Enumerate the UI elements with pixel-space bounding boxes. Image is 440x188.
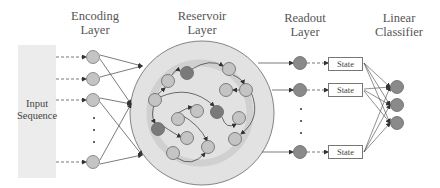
header-reservoir-line2: Layer bbox=[172, 23, 232, 37]
state-box-2: State bbox=[328, 83, 363, 97]
header-reservoir-line1: Reservoir bbox=[172, 9, 232, 23]
reservoir-node bbox=[233, 112, 246, 125]
reservoir-node bbox=[181, 132, 194, 145]
header-encoding-layer: Encoding Layer bbox=[65, 9, 125, 37]
header-readout-line2: Layer bbox=[275, 25, 335, 39]
header-readout-line1: Readout bbox=[275, 11, 335, 25]
header-reservoir-layer: Reservoir Layer bbox=[172, 9, 232, 37]
header-readout-layer: Readout Layer bbox=[275, 11, 335, 39]
readout-to-state-arrows bbox=[307, 63, 328, 152]
reservoir-node bbox=[229, 133, 242, 146]
reservoir-node bbox=[202, 141, 215, 154]
reservoir-node bbox=[223, 63, 236, 76]
state-to-classifier-connections bbox=[364, 63, 390, 152]
reservoir-node bbox=[191, 105, 204, 118]
state-box-1: State bbox=[328, 57, 363, 71]
header-encoding-line2: Layer bbox=[65, 23, 125, 37]
classifier-nodes bbox=[391, 81, 404, 130]
encoding-ellipsis-dots bbox=[93, 117, 95, 143]
reservoir-node-dark bbox=[181, 67, 194, 80]
reservoir-node bbox=[167, 147, 180, 160]
reservoir-node-dark bbox=[152, 123, 165, 136]
header-encoding-line1: Encoding bbox=[65, 9, 125, 23]
reservoir-node bbox=[240, 84, 253, 97]
reservoir-node-dark bbox=[211, 106, 224, 119]
header-linear-classifier: Linear Classifier bbox=[366, 11, 432, 39]
readout-nodes bbox=[294, 57, 307, 159]
reservoir-node bbox=[220, 84, 233, 97]
reservoir-node bbox=[162, 75, 175, 88]
state-box-3: State bbox=[328, 145, 363, 159]
reservoir-node bbox=[172, 113, 185, 126]
input-dashed-arrows bbox=[56, 57, 86, 162]
encoding-nodes bbox=[87, 51, 100, 169]
header-classifier-line2: Classifier bbox=[366, 25, 432, 39]
readout-ellipsis-dots bbox=[300, 108, 302, 134]
reservoir-node bbox=[149, 94, 162, 107]
header-classifier-line1: Linear bbox=[366, 11, 432, 25]
